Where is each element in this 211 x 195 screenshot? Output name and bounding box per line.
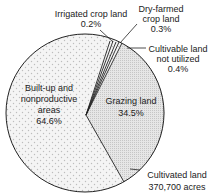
label-irrigated-pct: 0.2%: [49, 19, 133, 29]
label-dry-name2: crop land: [133, 14, 189, 24]
label-builtup-pct: 64.6%: [14, 116, 84, 127]
label-builtup: Built-up and nonproductive areas 64.6%: [14, 83, 84, 127]
label-builtup-name1: Built-up and: [14, 83, 84, 94]
label-builtup-name3: areas: [14, 105, 84, 116]
label-cultivated-value: 370,700 acres: [143, 181, 211, 193]
label-builtup-name2: nonproductive: [14, 94, 84, 105]
label-dry-pct: 0.3%: [133, 24, 189, 34]
label-grazing-name: Grazing land: [100, 95, 162, 107]
label-irrigated: Irrigated crop land 0.2%: [49, 9, 133, 29]
label-cultivable: Cultivable land not utilized 0.4%: [146, 44, 210, 74]
label-dry-farmed: Dry-farmed crop land 0.3%: [133, 4, 189, 34]
label-grazing: Grazing land 34.5%: [100, 95, 162, 119]
label-cultivable-name2: not utilized: [146, 54, 210, 64]
label-cultivable-pct: 0.4%: [146, 64, 210, 74]
label-irrigated-name: Irrigated crop land: [49, 9, 133, 19]
label-cultivated-total: Cultivated land 370,700 acres: [143, 169, 211, 193]
label-cultivated-name: Cultivated land: [143, 169, 211, 181]
label-grazing-pct: 34.5%: [100, 107, 162, 119]
label-dry-name1: Dry-farmed: [133, 4, 189, 14]
label-cultivable-name1: Cultivable land: [146, 44, 210, 54]
